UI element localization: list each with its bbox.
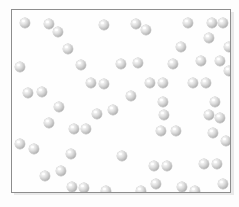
gas-particle — [158, 78, 168, 88]
gas-particle — [53, 27, 63, 37]
gas-particle — [162, 161, 172, 171]
gas-particle — [44, 19, 54, 29]
gas-particle — [145, 78, 155, 88]
gas-container-box — [11, 9, 231, 193]
gas-particle — [126, 91, 136, 101]
gas-particle — [99, 79, 109, 89]
gas-particle — [108, 105, 118, 115]
gas-particle — [215, 113, 225, 123]
gas-particle — [218, 18, 228, 28]
gas-particle — [224, 42, 231, 52]
gas-particle — [215, 56, 225, 66]
gas-particle — [29, 144, 39, 154]
gas-particle — [218, 179, 228, 189]
gas-particle — [40, 171, 50, 181]
gas-particle — [159, 110, 169, 120]
gas-particle — [54, 102, 64, 112]
gas-particle — [199, 159, 209, 169]
gas-particle — [44, 118, 54, 128]
gas-particle — [210, 97, 220, 107]
gas-particle — [204, 33, 214, 43]
container-interior — [12, 10, 230, 192]
gas-particle-diagram — [0, 0, 239, 207]
gas-particle — [156, 126, 166, 136]
gas-particle — [99, 20, 109, 30]
gas-particle — [204, 110, 214, 120]
gas-particle — [151, 179, 161, 189]
gas-particle — [37, 87, 47, 97]
gas-particle — [212, 159, 222, 169]
gas-particle — [86, 78, 96, 88]
gas-particle — [81, 124, 91, 134]
gas-particle — [117, 151, 127, 161]
gas-particle — [176, 42, 186, 52]
gas-particle — [101, 186, 111, 193]
gas-particle — [133, 58, 143, 68]
gas-particle — [190, 186, 200, 193]
gas-particle — [188, 78, 198, 88]
gas-particle — [201, 78, 211, 88]
gas-particle — [136, 186, 146, 193]
gas-particle — [171, 126, 181, 136]
gas-particle — [76, 60, 86, 70]
gas-particle — [15, 62, 25, 72]
gas-particle — [67, 182, 77, 192]
gas-particle — [92, 109, 102, 119]
gas-particle — [224, 66, 231, 76]
gas-particle — [116, 59, 126, 69]
gas-particle — [20, 18, 30, 28]
gas-particle — [177, 182, 187, 192]
gas-particle — [23, 88, 33, 98]
gas-particle — [63, 44, 73, 54]
gas-particle — [207, 18, 217, 28]
gas-particle — [196, 56, 206, 66]
gas-particle — [66, 149, 76, 159]
gas-particle — [168, 59, 178, 69]
gas-particle — [79, 183, 89, 193]
gas-particle — [183, 18, 193, 28]
gas-particle — [141, 25, 151, 35]
gas-particle — [221, 136, 231, 146]
gas-particle — [69, 124, 79, 134]
gas-particle — [56, 166, 66, 176]
gas-particle — [158, 97, 168, 107]
gas-particle — [208, 128, 218, 138]
gas-particle — [149, 161, 159, 171]
gas-particle — [131, 19, 141, 29]
gas-particle — [15, 139, 25, 149]
